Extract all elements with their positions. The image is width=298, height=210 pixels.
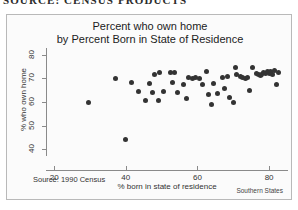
chart-title: Percent who own home by Percent Born in … xyxy=(7,20,293,46)
x-tick-mark xyxy=(269,166,270,171)
scatter-point xyxy=(136,89,141,94)
scatter-point xyxy=(250,65,255,70)
scatter-point xyxy=(274,82,279,87)
source-note: Source: 1990 Census xyxy=(33,175,105,184)
scatter-point xyxy=(170,80,175,85)
chart-title-line-1: Percent who own home xyxy=(7,20,293,33)
figure-caption: Southern States xyxy=(236,187,283,194)
scatter-point xyxy=(147,81,152,86)
scatter-point xyxy=(211,81,216,86)
scatter-point xyxy=(123,137,128,142)
scatter-point xyxy=(150,90,155,95)
y-tick-label: 70 xyxy=(27,70,36,86)
scatter-point xyxy=(161,89,166,94)
scatter-point xyxy=(181,82,186,87)
x-tick-label: 40 xyxy=(115,173,137,182)
scatter-point xyxy=(215,91,220,96)
scatter-point xyxy=(227,95,232,100)
scatter-point xyxy=(197,76,202,81)
scatter-point xyxy=(129,80,134,85)
scatter-point xyxy=(222,86,227,91)
scatter-point xyxy=(231,100,236,105)
scatter-point xyxy=(143,98,148,103)
scatter-point xyxy=(247,88,252,93)
page-running-header: SOURCE: CENSUS PRODUCTS xyxy=(0,0,298,6)
x-tick-mark xyxy=(197,166,198,171)
y-tick-label: 60 xyxy=(27,94,36,110)
x-axis-line xyxy=(46,170,288,171)
scatter-point xyxy=(225,74,230,79)
chart-title-line-2: by Percent Born in State of Residence xyxy=(7,33,293,46)
scatter-point xyxy=(206,92,211,97)
scatter-point xyxy=(157,70,162,75)
scatter-point xyxy=(152,72,157,77)
y-tick-label: 50 xyxy=(27,117,36,133)
scatter-point xyxy=(172,70,177,75)
scatter-point xyxy=(220,75,225,80)
scatter-chart-figure: Percent who own home by Percent Born in … xyxy=(6,14,292,200)
x-tick-mark xyxy=(54,166,55,171)
scatter-point xyxy=(113,76,118,81)
scatter-point xyxy=(184,96,189,101)
scatter-point xyxy=(245,75,250,80)
scatter-point xyxy=(175,90,180,95)
x-tick-label: 80 xyxy=(258,173,280,182)
screenshot-page: SOURCE: CENSUS PRODUCTS Percent who own … xyxy=(0,0,298,210)
scatter-point xyxy=(209,102,214,107)
x-tick-mark xyxy=(126,166,127,171)
scatter-point xyxy=(233,65,238,70)
scatter-point xyxy=(156,98,161,103)
y-tick-label: 80 xyxy=(27,46,36,62)
x-tick-label: 60 xyxy=(186,173,208,182)
plot-area xyxy=(47,50,287,154)
scatter-point xyxy=(270,72,275,77)
y-tick-label: 40 xyxy=(27,141,36,157)
scatter-point xyxy=(200,82,205,87)
y-axis-label: % who own home xyxy=(19,65,28,135)
scatter-point xyxy=(86,100,91,105)
scatter-point xyxy=(276,70,281,75)
scatter-point xyxy=(204,69,209,74)
